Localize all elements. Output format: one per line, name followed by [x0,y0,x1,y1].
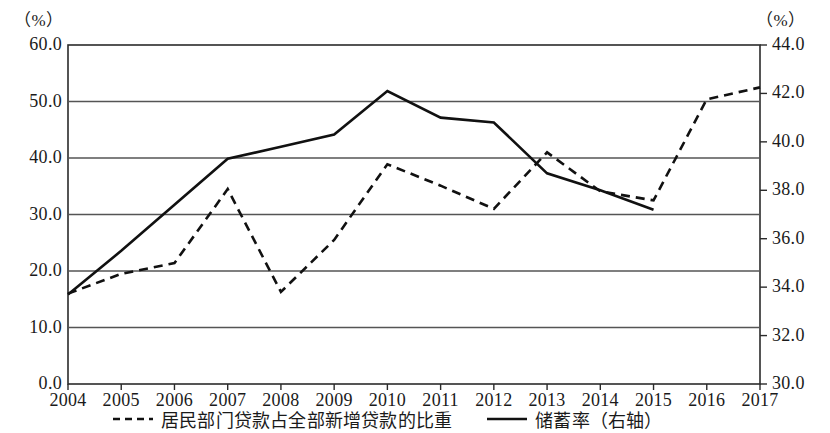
chart-legend: 居民部门贷款占全部新增贷款的比重 储蓄率（右轴） [112,406,663,432]
x-axis-tick-label: 2004 [40,390,96,411]
y-axis-right-tick-label: 42.0 [772,82,830,103]
y-axis-right-tick-label: 36.0 [772,228,830,249]
legend-label-household-loan-share: 居民部门贷款占全部新增贷款的比重 [161,406,452,432]
y-axis-right-tick-label: 32.0 [772,325,830,346]
y-axis-left-tick-label: 60.0 [0,34,62,55]
legend-item-savings-rate: 储蓄率（右轴） [486,406,662,432]
plot-area [0,0,830,433]
y-axis-right-tick-label: 40.0 [772,131,830,152]
y-axis-left-tick-label: 40.0 [0,147,62,168]
y-axis-right-tick-label: 34.0 [772,276,830,297]
y-axis-left-tick-label: 30.0 [0,204,62,225]
dashed-line-marker [112,414,154,424]
legend-item-household-loan-share: 居民部门贷款占全部新增贷款的比重 [112,406,452,432]
series-line-household-loan-share [68,87,760,293]
y-axis-right-tick-label: 44.0 [772,34,830,55]
y-axis-left-tick-label: 50.0 [0,91,62,112]
solid-line-marker [486,414,528,424]
y-axis-left-tick-label: 10.0 [0,317,62,338]
x-axis-tick-label: 2017 [732,390,788,411]
x-axis-tick-label: 2016 [679,390,735,411]
legend-label-savings-rate: 储蓄率（右轴） [535,406,662,432]
y-axis-left-tick-label: 20.0 [0,260,62,281]
y-axis-right-tick-label: 38.0 [772,179,830,200]
chart-figure: （%） （%） 0.010.020.030.040.050.060.030.03… [0,0,830,433]
series-line-savings-rate [68,91,654,294]
